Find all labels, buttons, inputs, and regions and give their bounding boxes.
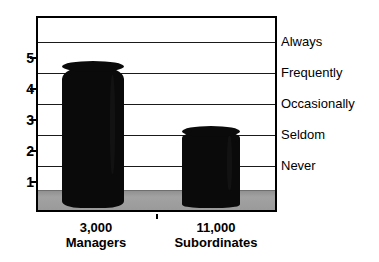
x-category-subordinates: 11,000 Subordinates bbox=[164, 220, 268, 250]
bar-managers[interactable] bbox=[62, 66, 124, 208]
gridline-5 bbox=[38, 42, 275, 43]
y-axis-labels: 5 4 3 2 1 bbox=[0, 16, 34, 212]
bar-subordinates-cap bbox=[182, 126, 240, 137]
x-category-managers: 3,000 Managers bbox=[50, 220, 142, 250]
x-category-subordinates-name: Subordinates bbox=[164, 235, 268, 250]
bar-managers-cap bbox=[62, 61, 124, 72]
scale-label-seldom: Seldom bbox=[281, 128, 325, 142]
x-axis-tick bbox=[156, 214, 158, 219]
bar-subordinates[interactable] bbox=[182, 131, 240, 208]
x-axis-labels: 3,000 Managers 11,000 Subordinates bbox=[36, 214, 277, 260]
scale-descriptor-labels: Always Frequently Occasionally Seldom Ne… bbox=[281, 16, 379, 212]
x-category-managers-name: Managers bbox=[50, 235, 142, 250]
bar-managers-highlight bbox=[110, 75, 116, 174]
scale-label-frequently: Frequently bbox=[281, 66, 342, 80]
plot-area bbox=[36, 16, 277, 212]
scale-label-occasionally: Occasionally bbox=[281, 97, 355, 111]
chart-container: 5 4 3 2 1 Always Frequ bbox=[0, 0, 379, 262]
x-category-subordinates-count: 11,000 bbox=[164, 220, 268, 235]
scale-label-never: Never bbox=[281, 159, 316, 173]
bar-subordinates-highlight bbox=[227, 136, 232, 190]
x-category-managers-count: 3,000 bbox=[50, 220, 142, 235]
scale-label-always: Always bbox=[281, 35, 322, 49]
